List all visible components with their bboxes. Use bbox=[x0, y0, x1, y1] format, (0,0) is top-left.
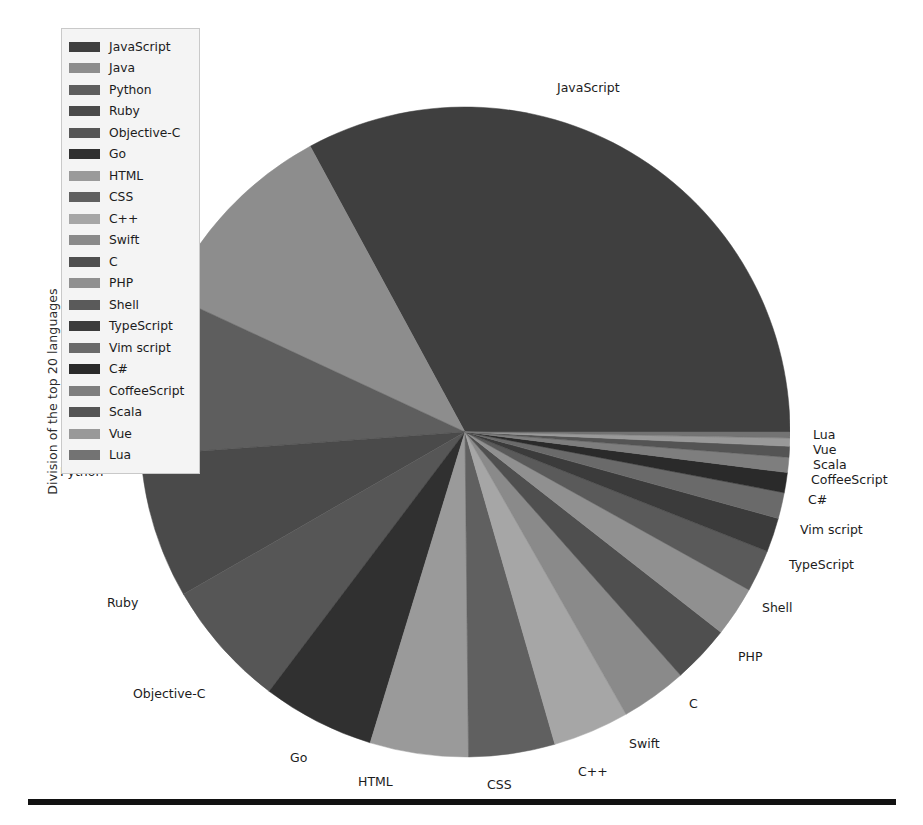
legend-swatch-icon bbox=[69, 364, 100, 374]
legend-swatch-icon bbox=[69, 171, 100, 181]
legend-item-label: Shell bbox=[109, 299, 139, 311]
pie-slice-label: TypeScript bbox=[789, 559, 854, 572]
legend-swatch-icon bbox=[69, 128, 100, 138]
legend-item[interactable]: Objective-C bbox=[69, 122, 191, 144]
legend-item-label: Vim script bbox=[109, 342, 171, 354]
legend-item-label: PHP bbox=[109, 277, 133, 289]
legend-item-label: TypeScript bbox=[109, 320, 173, 332]
legend-swatch-icon bbox=[69, 386, 100, 396]
pie-slice-label: CSS bbox=[487, 779, 512, 792]
legend-swatch-icon bbox=[69, 63, 100, 73]
pie-slice-label: JavaScript bbox=[557, 82, 620, 95]
legend-item-label: C# bbox=[109, 363, 128, 375]
legend-item-label: CSS bbox=[109, 191, 133, 203]
bottom-divider bbox=[28, 799, 896, 805]
pie-slice-label: HTML bbox=[358, 776, 393, 789]
pie-slice-label: Lua bbox=[813, 429, 835, 442]
legend-swatch-icon bbox=[69, 214, 100, 224]
legend-swatch-icon bbox=[69, 407, 100, 417]
pie-slice-label: C++ bbox=[578, 766, 608, 779]
legend-swatch-icon bbox=[69, 300, 100, 310]
legend-item[interactable]: Python bbox=[69, 79, 191, 101]
legend-swatch-icon bbox=[69, 257, 100, 267]
legend-item-label: Python bbox=[109, 84, 152, 96]
legend-item[interactable]: Vim script bbox=[69, 337, 191, 359]
legend-item-label: C bbox=[109, 256, 118, 268]
legend-swatch-icon bbox=[69, 192, 100, 202]
legend-swatch-icon bbox=[69, 149, 100, 159]
legend-item[interactable]: Lua bbox=[69, 445, 191, 467]
legend-item-label: C++ bbox=[109, 213, 138, 225]
legend-item[interactable]: Vue bbox=[69, 423, 191, 445]
legend-item-label: Vue bbox=[109, 428, 132, 440]
pie-chart-figure: Division of the top 20 languages JavaScr… bbox=[0, 0, 923, 825]
legend-swatch-icon bbox=[69, 321, 100, 331]
legend-item-label: Java bbox=[109, 62, 135, 74]
legend-box: JavaScriptJavaPythonRubyObjective-CGoHTM… bbox=[61, 28, 200, 474]
legend-swatch-icon bbox=[69, 450, 100, 460]
pie-plot-area bbox=[140, 100, 790, 770]
legend-item-label: HTML bbox=[109, 170, 143, 182]
legend-item[interactable]: Shell bbox=[69, 294, 191, 316]
legend-item-label: Swift bbox=[109, 234, 139, 246]
pie-slice-label: Shell bbox=[762, 602, 793, 615]
pie-slice-label: C bbox=[689, 698, 698, 711]
legend-swatch-icon bbox=[69, 106, 100, 116]
pie-slice-label: Scala bbox=[813, 459, 847, 472]
legend-swatch-icon bbox=[69, 85, 100, 95]
legend-item-label: CoffeeScript bbox=[109, 385, 184, 397]
pie-slice-label: Vue bbox=[813, 444, 836, 457]
pie-slice-label: Ruby bbox=[107, 597, 138, 610]
y-axis-label: Division of the top 20 languages bbox=[45, 262, 60, 522]
legend-swatch-icon bbox=[69, 343, 100, 353]
legend-item[interactable]: Swift bbox=[69, 230, 191, 252]
legend-item-label: JavaScript bbox=[109, 41, 171, 53]
pie-slice-label: Objective-C bbox=[133, 688, 206, 701]
pie-slices bbox=[140, 107, 790, 757]
pie-slice-label: Swift bbox=[629, 738, 660, 751]
legend-item[interactable]: C# bbox=[69, 359, 191, 381]
legend-swatch-icon bbox=[69, 278, 100, 288]
legend-item-label: Objective-C bbox=[109, 127, 180, 139]
legend-item[interactable]: CSS bbox=[69, 187, 191, 209]
legend-item-label: Scala bbox=[109, 406, 142, 418]
pie-slice-label: Vim script bbox=[800, 524, 863, 537]
legend-item[interactable]: JavaScript bbox=[69, 36, 191, 58]
legend-item[interactable]: C++ bbox=[69, 208, 191, 230]
legend-swatch-icon bbox=[69, 429, 100, 439]
pie-slice-label: PHP bbox=[738, 651, 762, 664]
legend-item[interactable]: Go bbox=[69, 144, 191, 166]
legend-swatch-icon bbox=[69, 235, 100, 245]
legend-item[interactable]: TypeScript bbox=[69, 316, 191, 338]
legend-item[interactable]: PHP bbox=[69, 273, 191, 295]
legend-item[interactable]: Ruby bbox=[69, 101, 191, 123]
pie-svg bbox=[140, 100, 790, 770]
pie-slice-label: C# bbox=[808, 494, 827, 507]
legend-item[interactable]: Scala bbox=[69, 402, 191, 424]
legend-item[interactable]: Java bbox=[69, 58, 191, 80]
legend-swatch-icon bbox=[69, 42, 100, 52]
pie-slice-label: Go bbox=[290, 752, 307, 765]
legend-item[interactable]: HTML bbox=[69, 165, 191, 187]
legend-item-label: Lua bbox=[109, 449, 131, 461]
legend-item[interactable]: CoffeeScript bbox=[69, 380, 191, 402]
legend-item[interactable]: C bbox=[69, 251, 191, 273]
pie-slice-label: CoffeeScript bbox=[811, 474, 888, 487]
legend-item-label: Go bbox=[109, 148, 126, 160]
legend-item-label: Ruby bbox=[109, 105, 140, 117]
